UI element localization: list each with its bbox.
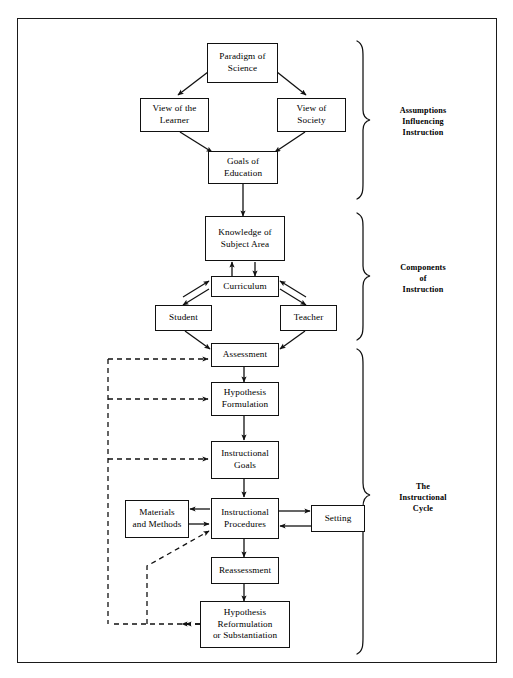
diagram-page: Paradigm of Science View of the Learner …	[0, 0, 513, 678]
node-label: Instructional Procedures	[221, 507, 269, 531]
node-hypothesis-reformulation-or-substantiation[interactable]: Hypothesis Reformulation or Substantiati…	[200, 601, 290, 648]
node-goals-of-education[interactable]: Goals of Education	[208, 151, 278, 184]
group-label-assumptions: Assumptions Influencing Instruction	[378, 105, 468, 138]
node-assessment[interactable]: Assessment	[211, 343, 279, 367]
node-label: View of the Learner	[153, 103, 197, 127]
node-view-of-society[interactable]: View of Society	[277, 98, 346, 132]
node-instructional-goals[interactable]: Instructional Goals	[211, 441, 279, 479]
node-label: Instructional Goals	[221, 448, 269, 472]
node-label: Setting	[325, 513, 352, 525]
node-paradigm-of-science[interactable]: Paradigm of Science	[207, 43, 278, 83]
node-knowledge-of-subject-area[interactable]: Knowledge of Subject Area	[205, 216, 285, 261]
node-view-of-the-learner[interactable]: View of the Learner	[140, 98, 209, 132]
node-materials-and-methods[interactable]: Materials and Methods	[125, 500, 189, 538]
group-label-components: Components of Instruction	[378, 262, 468, 295]
node-label: Curriculum	[223, 281, 266, 293]
group-label-instructional-cycle: The Instructional Cycle	[378, 481, 468, 514]
node-curriculum[interactable]: Curriculum	[211, 276, 279, 297]
node-label: Assessment	[223, 349, 267, 361]
node-label: Reassessment	[219, 565, 271, 577]
node-teacher[interactable]: Teacher	[280, 305, 337, 331]
node-hypothesis-formulation[interactable]: Hypothesis Formulation	[211, 382, 279, 416]
node-instructional-procedures[interactable]: Instructional Procedures	[211, 498, 279, 539]
node-label: Knowledge of Subject Area	[218, 227, 272, 251]
node-setting[interactable]: Setting	[311, 505, 365, 532]
node-label: View of Society	[297, 103, 327, 127]
node-student[interactable]: Student	[155, 305, 212, 331]
node-label: Student	[169, 312, 198, 324]
node-label: Goals of Education	[224, 156, 262, 180]
node-label: Materials and Methods	[133, 507, 182, 531]
node-label: Paradigm of Science	[219, 51, 265, 75]
node-label: Hypothesis Reformulation or Substantiati…	[213, 607, 277, 642]
node-reassessment[interactable]: Reassessment	[211, 557, 279, 584]
node-label: Teacher	[294, 312, 324, 324]
node-label: Hypothesis Formulation	[222, 387, 269, 411]
